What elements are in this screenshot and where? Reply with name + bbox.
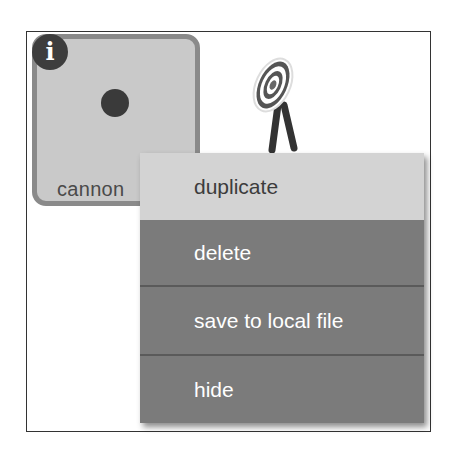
cannon-dot-icon	[101, 89, 129, 117]
menu-item-label: hide	[194, 378, 234, 402]
menu-item-delete[interactable]: delete	[140, 220, 424, 286]
target-icon[interactable]	[248, 50, 308, 155]
menu-item-label: save to local file	[194, 309, 343, 333]
sprite-label-cannon: cannon	[57, 178, 124, 201]
menu-item-label: duplicate	[194, 175, 278, 199]
info-icon[interactable]: i	[32, 34, 68, 70]
menu-item-save-to-local-file[interactable]: save to local file	[140, 287, 424, 354]
menu-item-label: delete	[194, 241, 251, 265]
menu-item-hide[interactable]: hide	[140, 356, 424, 423]
context-menu: duplicate delete save to local file hide	[140, 153, 424, 423]
menu-item-duplicate[interactable]: duplicate	[140, 153, 424, 220]
